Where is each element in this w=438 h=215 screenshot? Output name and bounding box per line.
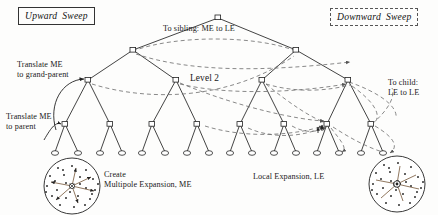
upward-sweep-arrows: [44, 79, 322, 140]
multipole-expansion-circle: [44, 158, 100, 214]
local-center-marker: [394, 181, 400, 187]
annotation-create-multipole: Create Multipole Expansion, ME: [104, 170, 192, 190]
downward-sweep-word1: Downward: [337, 11, 381, 22]
downward-sweep-curves: [92, 39, 396, 153]
upward-sweep-word2: Sweep: [62, 10, 88, 21]
tree-nodes-level-1: [130, 48, 299, 53]
to-child-line2: LE to LE: [388, 88, 419, 98]
translate-parent-line1: Translate ME: [6, 112, 52, 122]
translate-parent-line2: to parent: [6, 122, 52, 132]
annotation-translate-grandparent: Translate ME to grand-parent: [17, 60, 69, 80]
annotation-local-expansion: Local Expansion, LE: [253, 172, 324, 182]
local-expansion-text: Local Expansion, LE: [253, 172, 324, 182]
level-2-text: Level 2: [190, 73, 219, 84]
multipole-center-marker: [69, 183, 74, 188]
annotation-to-child: To child: LE to LE: [388, 78, 419, 98]
tree-edges: [55, 18, 383, 152]
translate-grandparent-line2: to grand-parent: [17, 70, 69, 80]
translate-grandparent-line1: Translate ME: [17, 60, 69, 70]
tree-node-root: [215, 15, 221, 20]
tree-nodes-level-4-leaves: [51, 151, 386, 156]
local-expansion-circle: [369, 156, 425, 212]
fmm-tree-diagram: UpwardSweep DownwardSweep Translate ME t…: [0, 0, 438, 215]
annotation-to-sibling: To sibling: ME to LE: [163, 24, 235, 34]
downward-sweep-badge: DownwardSweep: [330, 8, 418, 26]
downward-sweep-word2: Sweep: [386, 11, 412, 22]
annotation-level-2: Level 2: [190, 73, 219, 84]
create-me-line1: Create: [104, 170, 192, 180]
upward-sweep-word1: Upward: [25, 10, 57, 21]
upward-sweep-badge: UpwardSweep: [18, 7, 95, 25]
tree-nodes-level-3: [62, 122, 374, 127]
create-me-line2: Multipole Expansion, ME: [104, 180, 192, 190]
annotation-translate-parent: Translate ME to parent: [6, 112, 52, 132]
to-sibling-line1: To sibling: ME to LE: [163, 24, 235, 34]
to-child-line1: To child:: [388, 78, 419, 88]
